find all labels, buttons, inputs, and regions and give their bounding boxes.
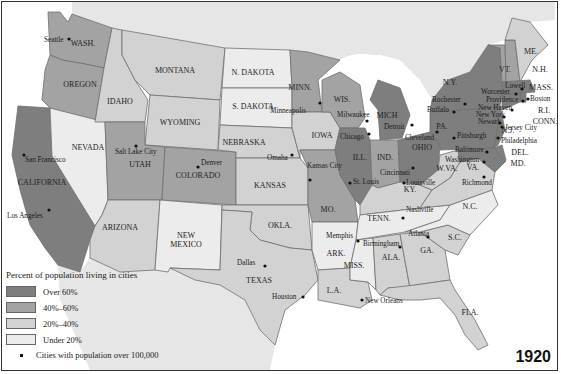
map-frame xyxy=(1,1,558,371)
map-1920-urbanization: WASH.OREGONCALIFORNIANEVADAIDAHOMONTANAW… xyxy=(0,0,561,374)
